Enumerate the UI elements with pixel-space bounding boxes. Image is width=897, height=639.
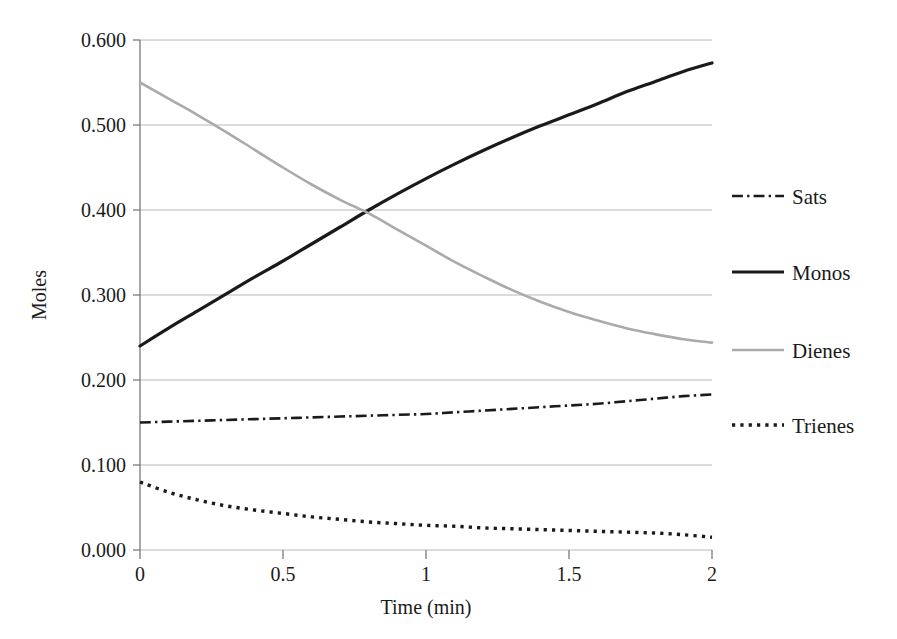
x-tick-label: 0 — [135, 563, 145, 585]
chart-background — [0, 0, 897, 639]
x-tick-label: 1 — [421, 563, 431, 585]
x-tick-label: 2 — [707, 563, 717, 585]
legend-label-monos: Monos — [792, 261, 850, 285]
chart-figure: 0.0000.1000.2000.3000.4000.5000.600 00.5… — [0, 0, 897, 639]
y-tick-label: 0.000 — [81, 539, 126, 561]
y-tick-label: 0.300 — [81, 284, 126, 306]
legend-label-sats: Sats — [792, 185, 827, 209]
x-tick-label: 1.5 — [557, 563, 582, 585]
legend-label-trienes: Trienes — [792, 414, 854, 438]
y-tick-label: 0.600 — [81, 29, 126, 51]
y-tick-label: 0.400 — [81, 199, 126, 221]
y-axis-title: Moles — [28, 270, 50, 320]
y-tick-label: 0.500 — [81, 114, 126, 136]
legend-label-dienes: Dienes — [792, 339, 850, 363]
y-tick-label: 0.200 — [81, 369, 126, 391]
x-axis-title: Time (min) — [381, 596, 472, 619]
x-tick-label: 0.5 — [271, 563, 296, 585]
y-tick-label: 0.100 — [81, 454, 126, 476]
